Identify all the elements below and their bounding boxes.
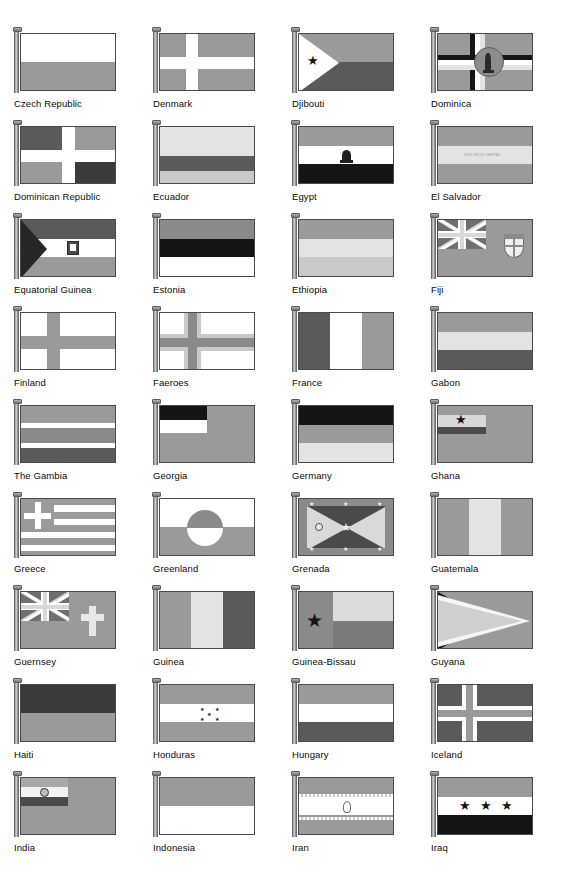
- flag-cell-greece[interactable]: Greece: [10, 491, 149, 584]
- kufic-script-band: [299, 817, 394, 820]
- flag-graphic-georgia: [153, 403, 273, 465]
- flag-cell-ecuador[interactable]: Ecuador: [149, 119, 288, 212]
- finial-icon: [430, 399, 439, 404]
- canton: ★: [438, 406, 486, 434]
- star-icon: ★: [306, 611, 323, 630]
- finial-icon: [13, 27, 22, 32]
- flag-cell-finland[interactable]: Finland: [10, 305, 149, 398]
- finial-icon: [291, 678, 300, 683]
- flag-graphic-haiti: [14, 682, 134, 744]
- finial-icon: [13, 771, 22, 776]
- flag-cell-the-gambia[interactable]: The Gambia: [10, 398, 149, 491]
- flag-cell-el-salvador[interactable]: DIOS UNION LIBERTAD El Salvador: [427, 119, 566, 212]
- cross-of-st-george-icon: [89, 606, 96, 636]
- flag-cell-iceland[interactable]: Iceland: [427, 677, 566, 770]
- flag-cell-ghana[interactable]: ★ Ghana: [427, 398, 566, 491]
- flagpole-icon: [292, 589, 297, 651]
- flag-cell-greenland[interactable]: Greenland: [149, 491, 288, 584]
- flag-cell-hungary[interactable]: Hungary: [288, 677, 427, 770]
- flag-face: [20, 312, 116, 370]
- ashoka-chakra-icon: [40, 788, 49, 797]
- flag-cell-haiti[interactable]: Haiti: [10, 677, 149, 770]
- finial-icon: [13, 306, 22, 311]
- star-icon: ★: [459, 799, 471, 812]
- flagpole-icon: [431, 496, 436, 558]
- flag-cell-estonia[interactable]: Estonia: [149, 212, 288, 305]
- flag-graphic-fiji: [431, 217, 551, 279]
- flag-cell-germany[interactable]: Germany: [288, 398, 427, 491]
- star-icon: ★: [200, 717, 204, 722]
- flag-graphic-finland: [14, 310, 134, 372]
- flag-graphic-guyana: [431, 589, 551, 651]
- flag-cell-guatemala[interactable]: Guatemala: [427, 491, 566, 584]
- flag-cell-djibouti[interactable]: ★ Djibouti: [288, 26, 427, 119]
- flag-face: [437, 219, 533, 277]
- flagpole-icon: [153, 310, 158, 372]
- flag-graphic-greece: [14, 496, 134, 558]
- flag-cell-egypt[interactable]: Egypt: [288, 119, 427, 212]
- flag-cell-dominica[interactable]: Dominica: [427, 26, 566, 119]
- flag-cell-guinea[interactable]: Guinea: [149, 584, 288, 677]
- flag-cell-georgia[interactable]: Georgia: [149, 398, 288, 491]
- flag-face: ★ ★ ★ ★ ★: [159, 684, 255, 742]
- flag-cell-ethiopia[interactable]: Ethiopia: [288, 212, 427, 305]
- flag-cell-faeroes[interactable]: Faeroes: [149, 305, 288, 398]
- flag-graphic-indonesia: [153, 775, 273, 837]
- flag-graphic-greenland: [153, 496, 273, 558]
- flag-cell-denmark[interactable]: Denmark: [149, 26, 288, 119]
- flag-graphic-dominica: [431, 31, 551, 93]
- flag-label: Djibouti: [292, 98, 324, 110]
- flag-cell-fiji[interactable]: Fiji: [427, 212, 566, 305]
- flag-label: Guatemala: [431, 563, 478, 575]
- flag-cell-iraq[interactable]: ★ ★ ★ Iraq: [427, 770, 566, 863]
- flag-cell-gabon[interactable]: Gabon: [427, 305, 566, 398]
- union-jack-canton-icon: [21, 592, 69, 621]
- flag-face: [20, 405, 116, 463]
- flag-face: [437, 498, 533, 556]
- star-icon: ★: [377, 546, 382, 552]
- star-icon: ★: [215, 707, 219, 712]
- flag-cell-guyana[interactable]: Guyana: [427, 584, 566, 677]
- finial-icon: [430, 27, 439, 32]
- finial-icon: [152, 27, 161, 32]
- flag-cell-france[interactable]: France: [288, 305, 427, 398]
- canton: [21, 778, 68, 806]
- flag-graphic-the-gambia: [14, 403, 134, 465]
- flagpole-icon: [292, 217, 297, 279]
- flag-face: [20, 219, 116, 277]
- canton-white-band: [160, 420, 207, 433]
- flag-graphic-ghana: ★: [431, 403, 551, 465]
- flagpole-icon: [431, 589, 436, 651]
- flagpole-icon: [153, 682, 158, 744]
- flag-cell-guernsey[interactable]: Guernsey: [10, 584, 149, 677]
- finial-icon: [291, 771, 300, 776]
- finial-icon: [13, 492, 22, 497]
- flag-cell-grenada[interactable]: ★ ★ ★ ★ ★ ★ ★ Grenada: [288, 491, 427, 584]
- flag-cell-czech-republic[interactable]: Czech Republic: [10, 26, 149, 119]
- finial-icon: [291, 399, 300, 404]
- flag-cell-iran[interactable]: Iran: [288, 770, 427, 863]
- canton-black-band: [160, 406, 207, 420]
- finial-icon: [291, 585, 300, 590]
- flagpole-icon: [431, 310, 436, 372]
- finial-icon: [291, 492, 300, 497]
- flag-face: [20, 126, 116, 184]
- flag-cell-dominican-republic[interactable]: Dominican Republic: [10, 119, 149, 212]
- flagpole-icon: [153, 31, 158, 93]
- star-icon: ★: [309, 546, 314, 552]
- flag-face: [159, 777, 255, 835]
- flagpole-icon: [431, 124, 436, 186]
- flag-label: Ecuador: [153, 191, 189, 203]
- flag-label: Grenada: [292, 563, 330, 575]
- flag-label: The Gambia: [14, 470, 67, 482]
- flag-face: [159, 405, 255, 463]
- flag-graphic-iceland: [431, 682, 551, 744]
- flag-cell-india[interactable]: India: [10, 770, 149, 863]
- finial-icon: [152, 399, 161, 404]
- flag-cell-honduras[interactable]: ★ ★ ★ ★ ★ Honduras: [149, 677, 288, 770]
- flag-cell-guinea-bissau[interactable]: ★ Guinea-Bissau: [288, 584, 427, 677]
- flag-graphic-ecuador: [153, 124, 273, 186]
- flag-cell-equatorial-guinea[interactable]: Equatorial Guinea: [10, 212, 149, 305]
- flag-cell-indonesia[interactable]: Indonesia: [149, 770, 288, 863]
- finial-icon: [13, 120, 22, 125]
